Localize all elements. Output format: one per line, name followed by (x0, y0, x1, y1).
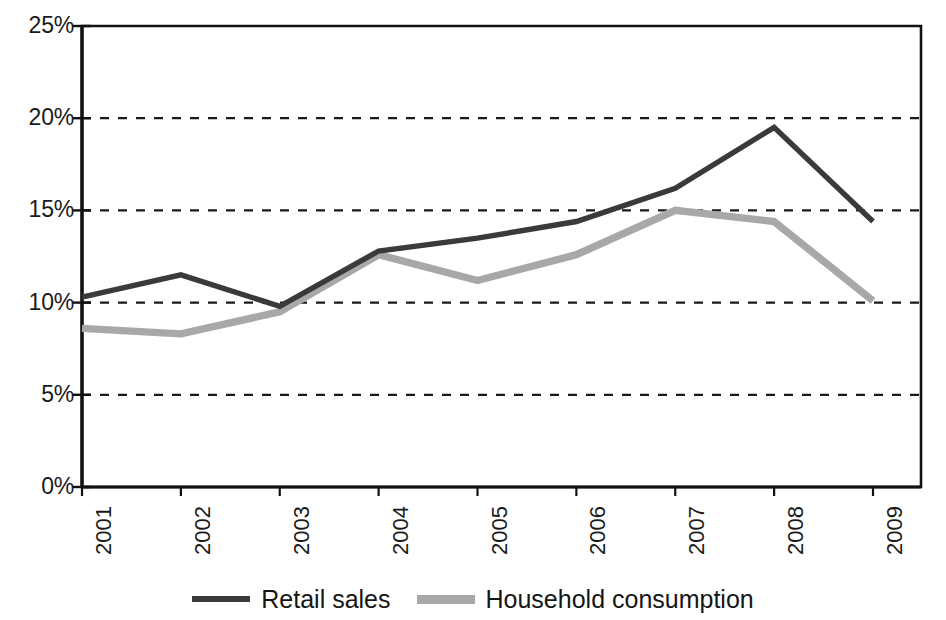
x-axis-tick-label: 2009 (884, 506, 906, 555)
x-axis-tick-label: 2001 (93, 506, 115, 555)
x-axis-tick-label: 2002 (192, 506, 214, 555)
legend-entry[interactable]: Retail sales (192, 586, 390, 613)
x-axis-tick-label: 2008 (785, 506, 807, 555)
legend-entry[interactable]: Household consumption (417, 586, 754, 613)
line-chart: 0%5%10%15%20%25% 20012002200320042005200… (0, 0, 946, 620)
legend-label: Retail sales (261, 586, 390, 613)
x-axis-tick-label: 2007 (686, 506, 708, 555)
x-axis-tick-labels: 200120022003200420052006200720082009 (0, 0, 946, 620)
x-axis-tick-label: 2005 (489, 506, 511, 555)
x-axis-tick-label: 2004 (390, 506, 412, 555)
x-axis-tick-label: 2003 (291, 506, 313, 555)
legend-label: Household consumption (486, 586, 754, 613)
chart-legend: Retail salesHousehold consumption (0, 578, 946, 620)
legend-swatch-1 (192, 596, 250, 602)
x-axis-tick-label: 2006 (587, 506, 609, 555)
legend-swatch-2 (417, 595, 475, 604)
